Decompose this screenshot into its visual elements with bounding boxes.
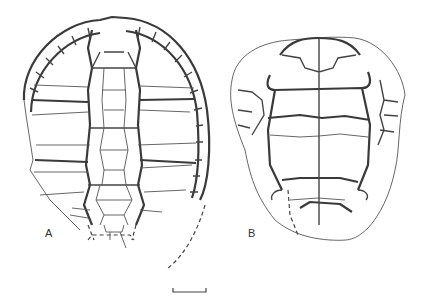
figure-canvas bbox=[0, 0, 425, 302]
panel-label-a: A bbox=[45, 227, 52, 239]
panel-label-b: B bbox=[248, 227, 255, 239]
panel-b-plastron bbox=[231, 37, 405, 240]
scale-bar bbox=[173, 288, 206, 292]
